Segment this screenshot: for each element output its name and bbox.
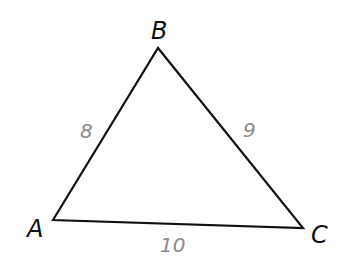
vertex-label-a: A <box>25 215 43 243</box>
triangle-diagram: A B C 8 9 10 <box>0 0 349 271</box>
vertex-label-c: C <box>311 221 328 249</box>
side-label-bc: 9 <box>243 118 256 142</box>
vertex-label-b: B <box>151 17 167 45</box>
side-label-ac: 10 <box>160 233 185 257</box>
side-label-ab: 8 <box>80 119 93 143</box>
